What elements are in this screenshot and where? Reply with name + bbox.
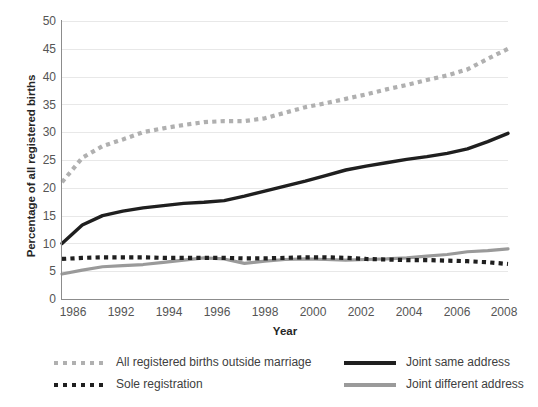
y-tick-label: 45 xyxy=(22,44,56,54)
legend-swatch-dotted-grey xyxy=(54,357,106,369)
y-tick-label: 15 xyxy=(22,211,56,221)
y-tick-label: 25 xyxy=(22,155,56,165)
legend-label: Sole registration xyxy=(116,378,203,391)
plot-area xyxy=(62,21,508,299)
y-tick-label: 10 xyxy=(22,239,56,249)
series-lines xyxy=(62,21,508,299)
legend-item-all-registered-births-outside-marriage: All registered births outside marriage xyxy=(54,356,311,369)
series-line xyxy=(62,49,508,182)
series-line xyxy=(62,133,508,243)
legend-item-joint-different-address: Joint different address xyxy=(344,378,524,391)
legend-label: Joint different address xyxy=(406,378,524,391)
legend-swatch-dotted-black xyxy=(54,379,106,391)
legend-item-sole-registration: Sole registration xyxy=(54,378,203,391)
y-tick-label: 40 xyxy=(22,72,56,82)
y-axis-tick-labels: 50 45 40 35 30 25 20 15 10 5 0 xyxy=(20,0,56,310)
y-tick-label: 50 xyxy=(22,16,56,26)
legend-swatch-solid-black xyxy=(344,357,396,369)
y-axis-line xyxy=(61,20,62,300)
legend-swatch-solid-grey xyxy=(344,379,396,391)
x-tick-label: 2008 xyxy=(474,305,534,319)
y-tick-label: 5 xyxy=(22,266,56,276)
legend-label: Joint same address xyxy=(406,356,510,369)
legend-item-joint-same-address: Joint same address xyxy=(344,356,510,369)
line-chart: Percentage of all registered births 50 4… xyxy=(0,0,538,407)
y-tick-label: 20 xyxy=(22,183,56,193)
y-tick-label: 35 xyxy=(22,100,56,110)
y-tick-label: 0 xyxy=(22,294,56,304)
x-axis-title: Year xyxy=(62,325,508,337)
x-axis-line xyxy=(61,299,509,300)
chart-legend: All registered births outside marriage S… xyxy=(0,350,538,400)
y-tick-label: 30 xyxy=(22,127,56,137)
legend-label: All registered births outside marriage xyxy=(116,356,311,369)
